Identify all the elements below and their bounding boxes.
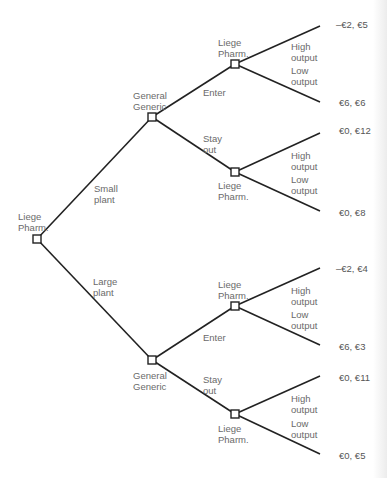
lu-player-label: Liege Pharm.	[218, 279, 249, 301]
payoff-1: –€2, €5	[336, 19, 368, 30]
ll-player-label: Liege Pharm.	[218, 423, 249, 445]
lower-enter-label: Enter	[203, 332, 226, 343]
lu-high-label: High output	[291, 285, 317, 307]
payoff-8: €0, €5	[339, 450, 365, 461]
root-player-label: Liege Pharm.	[18, 211, 49, 233]
payoff-5: –€2, €4	[336, 263, 368, 274]
ul-high-label: High output	[291, 150, 317, 172]
upper-enter-label: Enter	[203, 87, 226, 98]
large-plant-label: Large plant	[93, 276, 117, 298]
uu-node	[231, 60, 239, 68]
ll-node	[231, 410, 239, 418]
uu-low-label: Low output	[291, 65, 317, 87]
upper-stay-out-label: Stay out	[203, 133, 222, 155]
lower-gg-label: General Generic	[133, 370, 167, 392]
ll-low-label: Low output	[291, 418, 317, 440]
payoff-4: €0, €8	[339, 207, 365, 218]
ul-low-label: Low output	[291, 174, 317, 196]
lower-gg-node	[148, 356, 156, 364]
game-tree-lines	[0, 0, 387, 478]
ll-high-label: High output	[291, 393, 317, 415]
payoff-6: €6, €3	[339, 341, 365, 352]
small-plant-label: Small plant	[94, 183, 118, 205]
payoff-7: €0, €11	[339, 372, 370, 383]
payoff-3: €0, €12	[339, 125, 371, 136]
ul-node	[231, 168, 239, 176]
payoff-2: €6, €6	[339, 97, 365, 108]
uu-player-label: Liege Pharm.	[218, 37, 249, 59]
lu-low-label: Low output	[291, 309, 317, 331]
lower-stay-out-label: Stay out	[203, 374, 222, 396]
upper-gg-label: General Generic	[133, 90, 167, 112]
ul-player-label: Liege Pharm.	[218, 180, 249, 202]
uu-high-label: High output	[291, 41, 317, 63]
lu-node	[231, 302, 239, 310]
root-node	[33, 235, 41, 243]
upper-gg-node	[148, 113, 156, 121]
